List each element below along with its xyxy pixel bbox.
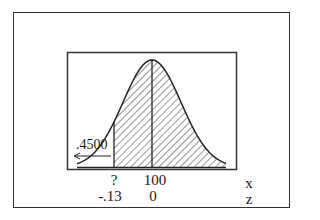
x-axis-name: x bbox=[245, 176, 253, 191]
cutoff-z-label: -.13 bbox=[98, 189, 122, 204]
area-label: .4500 bbox=[76, 138, 108, 152]
z-axis-name: z bbox=[246, 192, 253, 207]
mean-x-label: 100 bbox=[144, 173, 167, 188]
mean-z-label: 0 bbox=[149, 189, 157, 204]
cutoff-x-label: ? bbox=[111, 173, 118, 188]
